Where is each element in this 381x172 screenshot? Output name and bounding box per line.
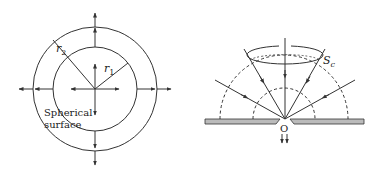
- label-origin: O: [280, 123, 288, 134]
- label-cone-sc: Sc: [323, 54, 336, 69]
- plate-right: [290, 119, 364, 124]
- cone-ellipse-back-right: [291, 46, 323, 55]
- ray-cone-right: [285, 49, 325, 119]
- cone-ellipse-back-left: [247, 46, 279, 55]
- label-r1: r1: [104, 62, 114, 77]
- aperture-cone-diagram: [215, 38, 355, 119]
- label-spherical: Spherical: [44, 107, 92, 118]
- ray-left: [215, 80, 285, 119]
- ray-cone-left: [244, 49, 285, 119]
- figure-canvas: r2 r1 Spherical surface O Sc: [0, 0, 381, 172]
- inner-dashed-wavefront: [253, 88, 315, 119]
- label-r2: r2: [56, 42, 66, 57]
- spherical-source-diagram: [19, 13, 171, 165]
- ray-right-arrow: [324, 95, 329, 98]
- down-arrows-icon: [282, 134, 287, 143]
- ray-cone-left-arrow: [260, 77, 263, 82]
- plate-left: [205, 119, 280, 124]
- ray-right: [285, 80, 355, 119]
- ray-left-arrow: [241, 95, 246, 98]
- label-surface: surface: [44, 119, 82, 130]
